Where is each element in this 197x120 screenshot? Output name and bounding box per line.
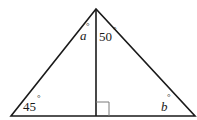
triangle-diagram: a ° 50 ° 45 ° b ° bbox=[0, 0, 197, 120]
right-angle-marker bbox=[96, 102, 109, 116]
angle-b-degree: ° bbox=[167, 92, 171, 102]
angle-45-degree: ° bbox=[37, 93, 41, 103]
angle-45-label: 45 bbox=[23, 99, 36, 114]
angle-50-degree: ° bbox=[113, 25, 117, 35]
angle-a-degree: ° bbox=[86, 21, 90, 31]
angle-50-label: 50 bbox=[99, 29, 112, 44]
